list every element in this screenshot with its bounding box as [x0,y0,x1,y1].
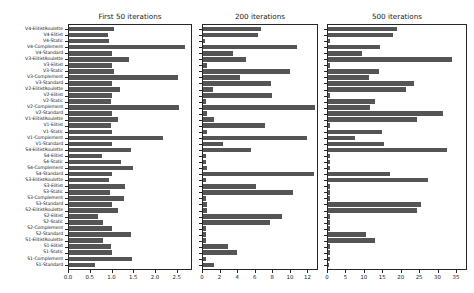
bar [68,250,112,255]
y-axis-tickmark [324,156,327,157]
x-axis-ticklabel: 0 [200,273,203,282]
bar [202,111,207,116]
table-row [68,232,192,237]
bar [68,57,129,62]
table-row [202,154,318,159]
bar [327,154,330,159]
y-axis-label: V1-Standard [0,142,66,147]
table-row [327,75,467,80]
table-row [68,136,192,141]
bar [202,69,290,74]
y-axis-label: V4-ElitistRoulette [0,27,66,32]
x-axis-ticklabel: 25 [416,273,423,282]
x-axis-ticklabel: 0.5 [85,273,94,282]
bar-rows [202,24,318,270]
table-row [202,196,318,201]
table-row [68,105,192,110]
bar [202,202,207,207]
chart-panel-first-50-iterations: First 50 iterations 0.00.51.01.52.02.5 [68,24,192,270]
y-axis-tickmark [324,138,327,139]
y-axis-tickmark [199,47,202,48]
y-axis-tickmark [324,65,327,66]
table-row [202,63,318,68]
bar [202,105,315,110]
table-row [68,202,192,207]
table-row [202,136,318,141]
y-axis-label: V2-ElitistRoulette [0,87,66,92]
y-axis-tickmark [65,59,68,60]
chart-panel-500-iterations: 500 iterations 05101520253035 [327,24,467,270]
table-row [68,178,192,183]
table-row [327,45,467,50]
bar [68,51,112,56]
table-row [202,111,318,116]
y-axis-tickmark [324,247,327,248]
bar [68,136,163,141]
y-axis-tickmark [324,162,327,163]
table-row [327,87,467,92]
y-axis-label: V3-Standard [0,81,66,86]
y-axis-tickmark [199,192,202,193]
x-axis-ticklabel: 1.0 [107,273,116,282]
y-axis-label: S3-ElitistRoulette [0,178,66,183]
table-row [327,178,467,183]
y-axis-label: S3-Static [0,190,66,195]
bar [202,250,237,255]
table-row [327,63,467,68]
bar [327,33,393,38]
y-axis-tickmark [199,29,202,30]
table-row [68,63,192,68]
bar [68,130,112,135]
x-axis-ticklabels: 05101520253035 [327,273,467,285]
bar [202,148,251,153]
y-axis-tickmark [199,114,202,115]
y-axis-tickmark [199,71,202,72]
table-row [68,244,192,249]
bar [68,178,109,183]
bar [68,87,120,92]
y-axis-tickmark [199,198,202,199]
x-axis-ticklabels: 024681012 [202,273,318,285]
table-row [202,184,318,189]
y-axis-tickmark [324,204,327,205]
bar [327,81,414,86]
table-row [327,39,467,44]
y-axis-tickmark [65,174,68,175]
table-row [202,257,318,262]
y-axis-tickmark [65,132,68,133]
table-row [68,196,192,201]
table-row [202,220,318,225]
table-row [327,184,467,189]
bar [202,123,265,128]
table-row [68,69,192,74]
y-axis-tickmark [65,211,68,212]
y-axis-label: V4-Complement [0,45,66,50]
y-axis-tickmark [65,53,68,54]
y-axis-label: S2-Complement [0,226,66,231]
bar [202,190,293,195]
bar [327,263,329,268]
panel-title: 500 iterations [327,11,467,22]
table-row [202,208,318,213]
table-row [327,51,467,56]
table-row [327,250,467,255]
y-axis-tickmark [324,59,327,60]
y-axis-tickmark [65,77,68,78]
bar [202,63,207,68]
y-axis-tickmark [199,77,202,78]
table-row [68,57,192,62]
bar [327,226,330,231]
y-axis-tickmark [324,71,327,72]
panel-title: 200 iterations [202,11,318,22]
bar [68,105,179,110]
y-axis-tickmark [65,247,68,248]
y-axis-tickmark [199,259,202,260]
table-row [327,208,467,213]
table-row [202,27,318,32]
table-row [68,51,192,56]
y-axis-tickmark [199,156,202,157]
bar [68,45,185,50]
table-row [68,184,192,189]
table-row [327,117,467,122]
bar [68,63,112,68]
